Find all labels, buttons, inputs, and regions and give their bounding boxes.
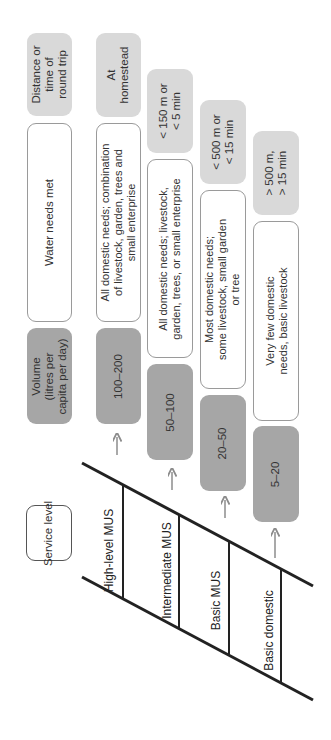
service-level-label-basic-mus: Basic MUS — [207, 555, 227, 645]
service-level-label-intermediate: Intermediate MUS — [157, 510, 177, 630]
water-service-ladder-diagram: Distance or time of round trip Water nee… — [0, 0, 331, 740]
service-level-label-basic-domestic: Basic domestic — [259, 575, 279, 685]
service-level-label-high: High-level MUS — [100, 500, 120, 600]
